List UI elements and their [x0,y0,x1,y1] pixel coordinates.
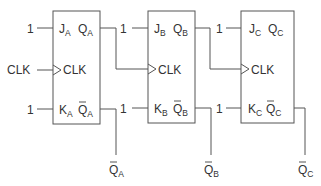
flipflop-b-k-input: 1 [120,102,127,116]
flipflop-b-qbar-output-wire [195,108,211,155]
flipflop-c: 1 JC QC CLK 1 KC QC QC [216,11,313,179]
flipflop-b-output-label: QB [204,163,219,179]
flipflop-b-clk-label: CLK [158,63,181,77]
jk-counter-diagram: 1 JA QA CLK CLK 1 KA QA QA 1 JB QB CLK 1… [0,0,321,186]
flipflop-a: 1 JA QA CLK CLK 1 KA QA QA [7,11,148,179]
flipflop-a-j-input: 1 [27,22,34,36]
flipflop-c-k-input: 1 [216,102,223,116]
flipflop-a-qbar-output-wire [100,109,116,155]
clock-input-label: CLK [7,63,30,77]
flipflop-a-clk-label: CLK [63,63,86,77]
flipflop-a-output-label: QA [109,163,124,179]
flipflop-c-j-input: 1 [216,22,223,36]
flipflop-b: 1 JB QB CLK 1 KB QB QB [120,11,241,179]
flipflop-a-k-input: 1 [27,103,34,117]
flipflop-b-j-input: 1 [120,22,127,36]
flipflop-c-qbar-output-wire [294,108,305,155]
flipflop-c-clk-label: CLK [251,63,274,77]
flipflop-c-output-label: QC [298,163,313,179]
